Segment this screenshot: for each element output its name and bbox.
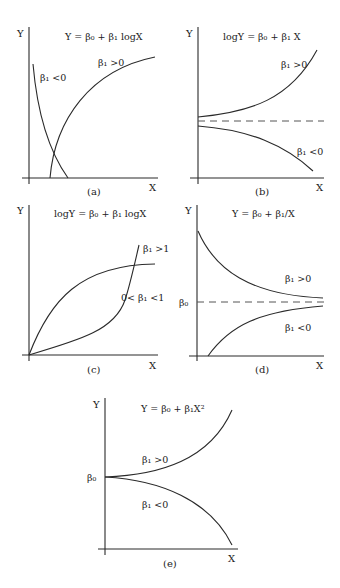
x-axis-label: X (228, 553, 236, 564)
curve-beta-positive (105, 410, 232, 477)
y-tick-beta0: β₀ (179, 297, 188, 308)
functional-forms-figure: Y X Y = β₀ + β₁ logX β₁ >0 β₁ <0 (a) Y X… (0, 0, 340, 588)
x-axis-label: X (149, 182, 157, 193)
caption: (a) (87, 186, 101, 197)
y-axis-label: Y (184, 205, 192, 216)
y-axis-label: Y (16, 205, 24, 216)
y-axis-label: Y (92, 399, 100, 410)
y-axis-label: Y (16, 28, 24, 39)
label-beta-positive: β₁ >0 (281, 59, 307, 70)
panel-c: Y X logY = β₀ + β₁ logX β₁ >1 0< β₁ <1 (… (16, 205, 169, 375)
y-axis-label: Y (185, 28, 193, 39)
y-tick-beta0: β₀ (87, 472, 96, 483)
label-beta-above-1: β₁ >1 (143, 243, 169, 254)
panel-b: Y X logY = β₀ + β₁ X β₁ >0 β₁ <0 (b) (185, 27, 324, 197)
curve-beta-between-0-1 (29, 264, 155, 355)
x-axis-label: X (316, 182, 324, 193)
caption: (d) (255, 364, 269, 375)
x-axis-label: X (316, 360, 324, 371)
panel-d: Y X Y = β₀ + β₁/X β₀ β₁ >0 β₁ <0 (d) (179, 205, 324, 375)
curve-beta-positive (198, 231, 323, 298)
caption: (b) (255, 186, 269, 197)
label-beta-positive: β₁ >0 (285, 273, 311, 284)
equation: Y = β₀ + β₁X² (140, 403, 205, 414)
label-beta-negative: β₁ <0 (297, 146, 323, 157)
curve-beta-negative (105, 477, 232, 545)
equation: logY = β₀ + β₁ X (223, 31, 301, 42)
label-beta-positive: β₁ >0 (142, 454, 168, 465)
label-beta-negative: β₁ <0 (285, 322, 311, 333)
x-axis-label: X (149, 360, 157, 371)
panel-e: Y X Y = β₀ + β₁X² β₀ β₁ >0 β₁ <0 (e) (87, 398, 238, 569)
caption: (e) (163, 558, 177, 569)
caption: (c) (87, 364, 101, 375)
label-beta-positive: β₁ >0 (98, 57, 124, 68)
curve-beta-negative (198, 126, 313, 171)
label-beta-negative: β₁ <0 (40, 72, 66, 83)
label-beta-between-0-1: 0< β₁ <1 (121, 292, 164, 303)
equation: logY = β₀ + β₁ logX (54, 208, 147, 219)
equation: Y = β₀ + β₁/X (231, 208, 295, 219)
equation: Y = β₀ + β₁ logX (64, 31, 143, 42)
panel-a: Y X Y = β₀ + β₁ logX β₁ >0 β₁ <0 (a) (16, 27, 158, 197)
label-beta-negative: β₁ <0 (142, 499, 168, 510)
